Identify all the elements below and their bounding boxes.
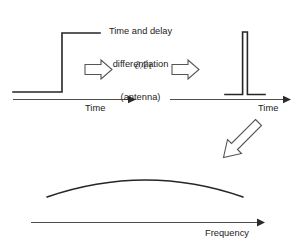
left-time-axis-label: Time <box>85 103 105 114</box>
derivative-operator-label: ∂/∂t <box>135 60 152 72</box>
figure-canvas: Time and delay differentiation (antenna)… <box>0 0 297 248</box>
right-time-axis-label: Time <box>258 103 278 114</box>
impulse-spike-trace <box>225 32 265 95</box>
spectrum-panel <box>31 180 265 226</box>
diagram-title-line-3: (antenna) <box>83 92 198 103</box>
right-time-axis-arrowhead <box>283 96 291 103</box>
frequency-axis-label: Frequency <box>205 228 249 239</box>
diagram-title-line-1: Time and delay <box>83 26 198 37</box>
block-arrow-diagonal-down-left <box>224 120 262 158</box>
frequency-axis-arrowhead <box>257 219 265 227</box>
spectrum-arc-trace <box>47 180 243 197</box>
